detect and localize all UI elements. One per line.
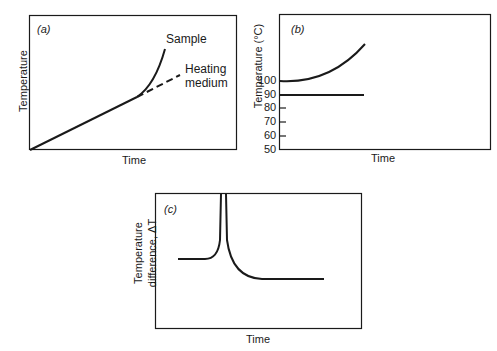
panel-c-tag: (c) (164, 203, 177, 215)
panel-c-plot (0, 0, 497, 351)
panel-c-ylabel-2: difference, ΔT (146, 213, 158, 293)
panel-c-xlabel: Time (246, 333, 270, 345)
delta-t-rise (178, 194, 221, 259)
delta-t-fall (226, 194, 324, 279)
panel-c-ylabel-1: Temperature (132, 213, 144, 293)
